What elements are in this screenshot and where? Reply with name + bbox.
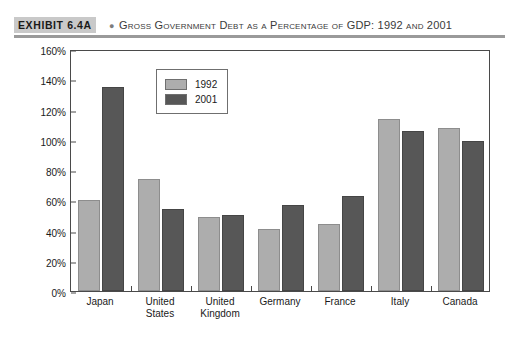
bar-group bbox=[371, 51, 431, 291]
legend-item-1992: 1992 bbox=[165, 77, 217, 91]
y-axis-tick-label: 20% bbox=[46, 257, 66, 268]
legend-label-2001: 2001 bbox=[195, 94, 217, 105]
exhibit-header: EXHIBIT 6.4A ● Gross Government Debt as … bbox=[14, 16, 505, 38]
x-axis-label-united-kingdom: United Kingdom bbox=[200, 296, 239, 320]
y-axis-tick-label: 60% bbox=[46, 197, 66, 208]
x-axis-label-canada: Canada bbox=[442, 296, 477, 308]
title-rule bbox=[14, 35, 505, 38]
y-axis-tick-label: 0% bbox=[52, 288, 66, 299]
bar-japan-1992 bbox=[78, 200, 100, 291]
bar-italy-1992 bbox=[378, 119, 400, 291]
bar-germany-2001 bbox=[282, 205, 304, 291]
exhibit-tag: EXHIBIT 6.4A bbox=[14, 17, 96, 33]
bar-germany-1992 bbox=[258, 229, 280, 291]
bar-italy-2001 bbox=[402, 131, 424, 291]
bar-canada-2001 bbox=[462, 141, 484, 291]
exhibit-figure: EXHIBIT 6.4A ● Gross Government Debt as … bbox=[0, 0, 517, 341]
bar-group bbox=[311, 51, 371, 291]
y-axis-tick-label: 100% bbox=[40, 136, 66, 147]
bar-group bbox=[431, 51, 491, 291]
bar-united-kingdom-2001 bbox=[222, 215, 244, 291]
exhibit-title: Gross Government Debt as a Percentage of… bbox=[119, 18, 452, 32]
x-axis-label-france: France bbox=[324, 296, 355, 308]
x-axis-label-japan: Japan bbox=[86, 296, 113, 308]
bar-group bbox=[71, 51, 131, 291]
plot-frame: 0%20%40%60%80%100%120%140%160% 19922001 bbox=[70, 50, 490, 292]
y-axis-tick-label: 80% bbox=[46, 167, 66, 178]
x-axis-label-italy: Italy bbox=[391, 296, 409, 308]
y-axis-tick-label: 120% bbox=[40, 106, 66, 117]
legend-label-1992: 1992 bbox=[195, 79, 217, 90]
legend-swatch-2001 bbox=[165, 94, 187, 105]
x-axis-label-united-states: United States bbox=[146, 296, 175, 320]
bar-france-1992 bbox=[318, 224, 340, 291]
bar-united-kingdom-1992 bbox=[198, 217, 220, 291]
bar-canada-1992 bbox=[438, 128, 460, 291]
bar-japan-2001 bbox=[102, 87, 124, 291]
y-axis-tick-label: 140% bbox=[40, 76, 66, 87]
y-axis-tick bbox=[71, 293, 76, 294]
bar-group bbox=[251, 51, 311, 291]
bar-united-states-1992 bbox=[138, 179, 160, 291]
bar-united-states-2001 bbox=[162, 209, 184, 291]
bullet-separator-icon: ● bbox=[109, 20, 114, 32]
chart-legend: 19922001 bbox=[156, 69, 228, 114]
y-axis-tick-label: 40% bbox=[46, 227, 66, 238]
legend-item-2001: 2001 bbox=[165, 92, 217, 106]
y-axis-tick-label: 160% bbox=[40, 46, 66, 57]
x-axis-label-germany: Germany bbox=[259, 296, 300, 308]
legend-swatch-1992 bbox=[165, 79, 187, 90]
bar-france-2001 bbox=[342, 196, 364, 291]
plot-area: 0%20%40%60%80%100%120%140%160% bbox=[71, 51, 489, 291]
